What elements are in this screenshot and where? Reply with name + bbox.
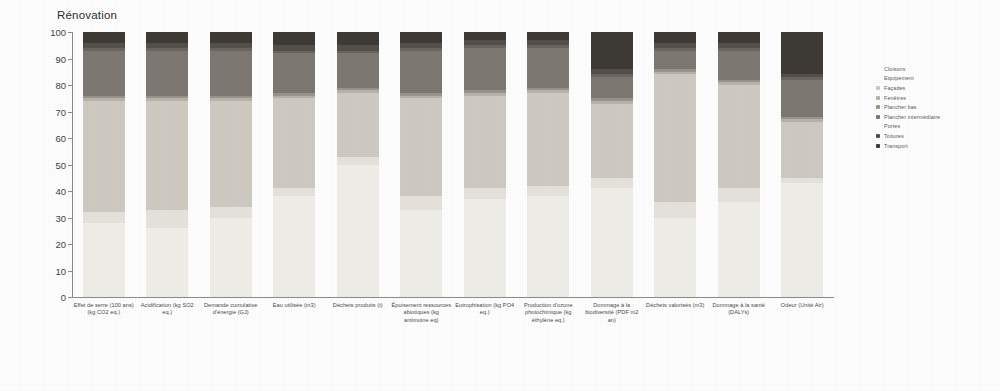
bar-segment[interactable] <box>527 88 569 91</box>
bar-segment[interactable] <box>400 48 442 51</box>
bar-segment[interactable] <box>210 43 252 48</box>
bar-segment[interactable] <box>146 32 188 43</box>
bar-segment[interactable] <box>654 51 696 70</box>
bar-segment[interactable] <box>591 188 633 297</box>
bar-segment[interactable] <box>464 96 506 189</box>
bar-segment[interactable] <box>210 207 252 218</box>
bar-segment[interactable] <box>400 96 442 99</box>
bar-segment[interactable] <box>337 32 379 45</box>
bar-column[interactable] <box>273 32 315 297</box>
bar-segment[interactable] <box>464 90 506 93</box>
legend-item[interactable]: Transport <box>876 141 996 151</box>
bar-segment[interactable] <box>83 96 125 99</box>
bar-segment[interactable] <box>210 218 252 298</box>
bar-column[interactable] <box>718 32 760 297</box>
legend-item[interactable]: Plancher bas <box>876 102 996 112</box>
bar-segment[interactable] <box>400 51 442 93</box>
legend-item[interactable]: Façades <box>876 83 996 93</box>
bar-segment[interactable] <box>83 212 125 223</box>
bar-segment[interactable] <box>718 43 760 48</box>
legend-item[interactable]: Portes <box>876 122 996 132</box>
legend-item[interactable]: Fenêtres <box>876 93 996 103</box>
bar-segment[interactable] <box>718 85 760 188</box>
bar-segment[interactable] <box>83 98 125 101</box>
bar-segment[interactable] <box>718 202 760 297</box>
bar-segment[interactable] <box>718 188 760 201</box>
bar-segment[interactable] <box>718 51 760 80</box>
bar-segment[interactable] <box>654 43 696 48</box>
bar-segment[interactable] <box>337 93 379 157</box>
bar-segment[interactable] <box>464 48 506 90</box>
bar-segment[interactable] <box>273 51 315 54</box>
bar-segment[interactable] <box>464 188 506 199</box>
bar-segment[interactable] <box>654 74 696 201</box>
bar-column[interactable] <box>210 32 252 297</box>
bar-segment[interactable] <box>210 96 252 99</box>
bar-segment[interactable] <box>464 93 506 96</box>
bar-column[interactable] <box>400 32 442 297</box>
bar-segment[interactable] <box>337 53 379 87</box>
bar-column[interactable] <box>464 32 506 297</box>
bar-segment[interactable] <box>527 186 569 197</box>
bar-segment[interactable] <box>400 196 442 209</box>
bar-segment[interactable] <box>464 45 506 48</box>
bar-column[interactable] <box>781 32 823 297</box>
bar-segment[interactable] <box>527 48 569 88</box>
bar-column[interactable] <box>591 32 633 297</box>
bar-segment[interactable] <box>400 43 442 48</box>
bar-segment[interactable] <box>210 32 252 43</box>
bar-segment[interactable] <box>591 101 633 104</box>
bar-segment[interactable] <box>273 196 315 297</box>
bar-segment[interactable] <box>781 117 823 120</box>
bar-segment[interactable] <box>400 93 442 96</box>
bar-segment[interactable] <box>273 188 315 196</box>
bar-segment[interactable] <box>337 157 379 165</box>
bar-segment[interactable] <box>781 74 823 77</box>
bar-column[interactable] <box>83 32 125 297</box>
bar-segment[interactable] <box>273 32 315 45</box>
bar-segment[interactable] <box>210 98 252 101</box>
bar-segment[interactable] <box>591 32 633 69</box>
legend-item[interactable]: Toitures <box>876 131 996 141</box>
bar-segment[interactable] <box>654 32 696 43</box>
bar-segment[interactable] <box>591 74 633 77</box>
bar-segment[interactable] <box>527 40 569 45</box>
bar-segment[interactable] <box>337 90 379 93</box>
bar-segment[interactable] <box>464 199 506 297</box>
bar-segment[interactable] <box>83 223 125 297</box>
bar-segment[interactable] <box>718 32 760 43</box>
legend-item[interactable]: Cloisons <box>876 64 996 74</box>
bar-column[interactable] <box>527 32 569 297</box>
bar-segment[interactable] <box>527 90 569 93</box>
bar-segment[interactable] <box>83 51 125 96</box>
bar-segment[interactable] <box>146 96 188 99</box>
bar-segment[interactable] <box>781 122 823 178</box>
bar-segment[interactable] <box>781 32 823 74</box>
bar-segment[interactable] <box>654 218 696 298</box>
bar-segment[interactable] <box>146 98 188 101</box>
bar-segment[interactable] <box>83 48 125 51</box>
bar-segment[interactable] <box>337 51 379 54</box>
bar-segment[interactable] <box>273 93 315 96</box>
bar-segment[interactable] <box>210 48 252 51</box>
bar-segment[interactable] <box>273 96 315 99</box>
bar-segment[interactable] <box>591 77 633 98</box>
bar-column[interactable] <box>146 32 188 297</box>
bar-segment[interactable] <box>273 45 315 50</box>
bar-segment[interactable] <box>527 93 569 186</box>
bar-segment[interactable] <box>400 210 442 297</box>
bar-segment[interactable] <box>146 48 188 51</box>
bar-segment[interactable] <box>337 88 379 91</box>
bar-segment[interactable] <box>146 101 188 210</box>
bar-segment[interactable] <box>146 51 188 96</box>
bar-segment[interactable] <box>591 98 633 101</box>
bar-segment[interactable] <box>781 77 823 80</box>
bar-segment[interactable] <box>273 98 315 188</box>
bar-segment[interactable] <box>464 40 506 45</box>
bar-segment[interactable] <box>591 104 633 178</box>
bar-segment[interactable] <box>146 210 188 229</box>
bar-segment[interactable] <box>527 45 569 48</box>
bar-segment[interactable] <box>654 72 696 75</box>
bar-segment[interactable] <box>718 82 760 85</box>
bar-segment[interactable] <box>527 196 569 297</box>
